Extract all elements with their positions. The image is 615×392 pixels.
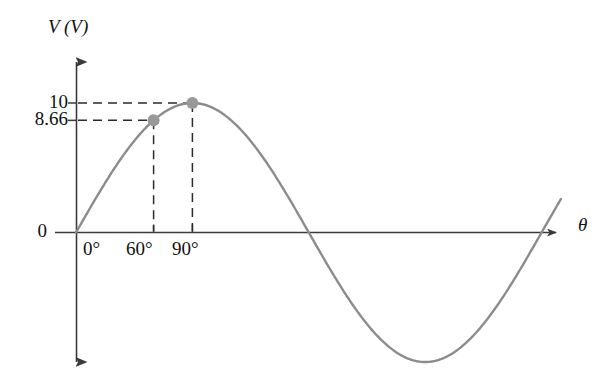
y-tick-label-8-66: 8.66 <box>13 108 68 130</box>
x-tick-label-90: 90° <box>172 238 199 260</box>
x-tick-label-0: 0° <box>83 238 100 260</box>
data-point-60deg[interactable] <box>148 114 160 126</box>
sine-voltage-chart: V (V) θ 10 8.66 0 0° 60° 90° <box>0 0 615 392</box>
y-axis-title: V (V) <box>48 16 88 38</box>
x-tick-label-60: 60° <box>126 238 153 260</box>
x-axis-title: θ <box>578 214 587 236</box>
data-point-90deg[interactable] <box>186 97 198 109</box>
y-tick-label-0: 0 <box>31 220 47 242</box>
chart-canvas <box>0 0 615 392</box>
